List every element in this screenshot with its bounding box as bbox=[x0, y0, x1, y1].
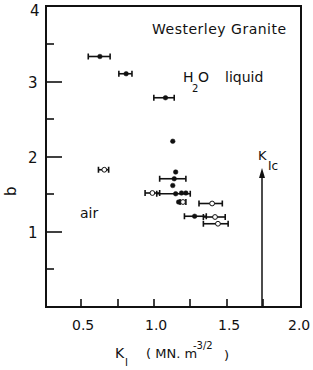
data-point-h2o bbox=[163, 95, 168, 100]
data-point-h2o bbox=[124, 71, 129, 76]
y-tick-label: 4 bbox=[30, 2, 40, 20]
y-axis-label: b bbox=[2, 186, 20, 196]
data-point-h2o bbox=[184, 191, 189, 196]
kic-arrow: K Ic bbox=[258, 148, 278, 307]
data-point-air bbox=[216, 221, 221, 226]
svg-text:I: I bbox=[125, 357, 128, 368]
x-axis-ticks bbox=[81, 299, 263, 307]
data-point-h2o bbox=[173, 170, 178, 175]
y-tick-label: 2 bbox=[28, 149, 38, 167]
data-point-h2o bbox=[172, 176, 177, 181]
data-point-h2o bbox=[170, 139, 175, 144]
x-tick-label: 2.0 bbox=[288, 317, 310, 333]
scatter-chart: 4 3 2 1 0.5 1.0 1.5 2.0 b K I ( MN. m -3… bbox=[0, 0, 313, 370]
data-point-air bbox=[181, 200, 186, 205]
air-label: air bbox=[80, 205, 98, 221]
svg-text:): ) bbox=[224, 348, 229, 363]
data-point-h2o bbox=[98, 54, 103, 59]
x-tick-label: 1.0 bbox=[145, 317, 167, 333]
data-point-air bbox=[210, 201, 215, 206]
svg-text:K: K bbox=[115, 345, 125, 361]
chart-title: Westerley Granite bbox=[152, 21, 287, 37]
data-point-air bbox=[213, 215, 218, 220]
svg-text:K: K bbox=[258, 148, 267, 163]
data-point-h2o bbox=[179, 191, 184, 196]
y-tick-label: 1 bbox=[28, 224, 38, 242]
svg-text:( MN. m: ( MN. m bbox=[146, 346, 197, 361]
data-point-air bbox=[150, 191, 155, 196]
y-tick-label: 3 bbox=[28, 74, 38, 92]
h2o-liquid-label: H 2 O liquid bbox=[183, 69, 263, 94]
svg-text:O: O bbox=[198, 69, 209, 85]
svg-text:Ic: Ic bbox=[268, 159, 278, 173]
data-point-h2o bbox=[170, 183, 175, 188]
svg-text:-3/2: -3/2 bbox=[193, 340, 213, 351]
svg-text:liquid: liquid bbox=[225, 69, 263, 85]
y-axis-ticks bbox=[46, 44, 62, 269]
x-tick-label: 1.5 bbox=[218, 317, 240, 333]
x-axis-label: K I ( MN. m -3/2 ) bbox=[115, 340, 229, 368]
data-point-h2o bbox=[173, 191, 178, 196]
data-point-h2o bbox=[192, 214, 197, 219]
data-point-air bbox=[102, 167, 107, 172]
x-tick-label: 0.5 bbox=[72, 317, 94, 333]
